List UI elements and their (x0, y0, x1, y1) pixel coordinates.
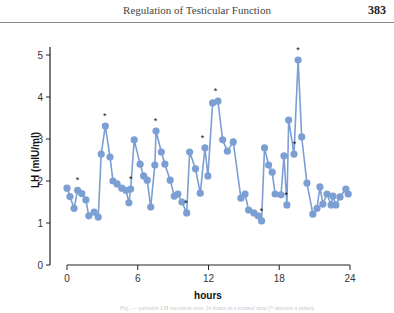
data-point (303, 180, 310, 187)
data-point (106, 153, 113, 160)
pulse-star-marker: * (296, 45, 300, 55)
data-point (204, 172, 211, 179)
data-point (144, 177, 151, 184)
data-point (261, 144, 268, 151)
pulse-star-marker: * (154, 116, 158, 126)
data-point (298, 133, 305, 140)
data-point (174, 190, 181, 197)
data-point (309, 211, 316, 218)
pulse-star-marker: * (285, 190, 289, 200)
data-point (201, 144, 208, 151)
y-tick-label: 1 (37, 218, 43, 229)
data-point (66, 193, 73, 200)
data-point (258, 217, 265, 224)
y-axis-title: LH (mIU/ml) (30, 132, 41, 188)
pulse-star-marker: * (260, 206, 264, 216)
data-point (63, 185, 70, 192)
data-point (151, 161, 158, 168)
data-point (152, 127, 159, 134)
x-axis: 06121824 (64, 265, 356, 284)
data-point (230, 138, 237, 145)
data-point (336, 193, 343, 200)
lh-series (63, 56, 351, 224)
data-point (316, 183, 323, 190)
data-point (186, 148, 193, 155)
data-point (125, 199, 132, 206)
data-point (313, 205, 320, 212)
data-point (167, 177, 174, 184)
data-point (197, 190, 204, 197)
data-point (219, 136, 226, 143)
x-tick-label: 18 (274, 273, 286, 284)
x-tick-label: 0 (64, 273, 70, 284)
y-tick-label: 5 (37, 50, 43, 61)
x-tick-label: 12 (203, 273, 215, 284)
x-tick-label: 24 (344, 273, 356, 284)
x-tick-label: 6 (135, 273, 141, 284)
data-point (147, 203, 154, 210)
data-point (319, 201, 326, 208)
data-point (95, 214, 102, 221)
data-point (295, 56, 302, 63)
y-tick-label: 0 (37, 260, 43, 271)
data-point (224, 148, 231, 155)
data-point (265, 161, 272, 168)
data-point (269, 169, 276, 176)
data-point (345, 190, 352, 197)
y-tick-label: 4 (37, 92, 43, 103)
data-point (183, 209, 190, 216)
data-point (131, 136, 138, 143)
pulse-star-marker: * (214, 86, 218, 96)
data-point (332, 201, 339, 208)
data-point (285, 117, 292, 124)
data-point (290, 151, 297, 158)
data-point (82, 196, 89, 203)
pulse-star-marker: * (103, 111, 107, 121)
data-point (280, 152, 287, 159)
data-point (192, 165, 199, 172)
data-point (127, 185, 134, 192)
data-point (283, 201, 290, 208)
data-point (161, 161, 168, 168)
figure-caption: Fig. — pulsatile LH secretion over 24 ho… (120, 305, 315, 311)
pulse-star-marker: * (184, 198, 188, 208)
data-point (78, 190, 85, 197)
data-point (98, 151, 105, 158)
data-point (102, 122, 109, 129)
data-point (241, 190, 248, 197)
data-point (277, 191, 284, 198)
lh-pulse-chart: 012345 06121824 *********** LH (mIU/ml) … (0, 0, 394, 313)
data-point (70, 205, 77, 212)
data-point (158, 148, 165, 155)
data-point (137, 161, 144, 168)
x-axis-title: hours (194, 290, 222, 301)
data-point (329, 193, 336, 200)
pulse-star-marker: * (293, 139, 297, 149)
pulse-star-marker: * (129, 174, 133, 184)
pulse-star-marker: * (201, 133, 205, 143)
data-point (214, 98, 221, 105)
pulse-star-marker: * (76, 175, 80, 185)
